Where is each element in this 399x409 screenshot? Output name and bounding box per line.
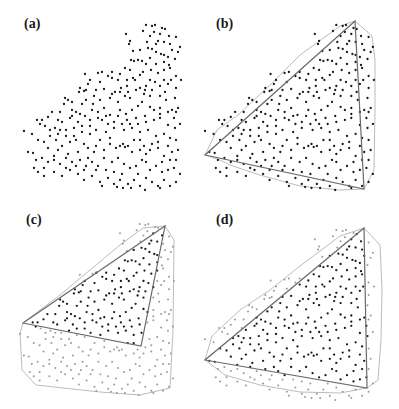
data-point: [115, 325, 117, 327]
data-point: [116, 346, 118, 348]
data-point: [322, 139, 324, 141]
data-point: [139, 131, 141, 133]
data-point: [84, 321, 86, 323]
data-point: [320, 151, 322, 153]
data-point: [129, 319, 131, 321]
data-point: [359, 145, 361, 147]
data-point: [348, 40, 350, 42]
data-point: [271, 165, 273, 167]
data-point: [152, 315, 154, 317]
data-point: [281, 89, 283, 91]
data-point: [43, 175, 45, 177]
data-point: [167, 56, 169, 58]
data-point: [117, 79, 119, 81]
data-point: [93, 282, 95, 284]
data-point: [78, 373, 80, 375]
data-point: [236, 159, 238, 161]
data-point: [217, 159, 219, 161]
data-point: [362, 79, 364, 81]
data-point: [39, 379, 41, 381]
data-point: [175, 181, 177, 183]
data-point: [124, 259, 126, 261]
data-point: [151, 143, 153, 145]
data-point: [119, 179, 121, 181]
data-point: [262, 121, 264, 123]
data-point: [161, 264, 163, 266]
data-point: [144, 115, 146, 117]
data-point: [170, 353, 172, 355]
data-point: [288, 327, 290, 329]
data-point: [107, 388, 109, 390]
data-point: [93, 151, 95, 153]
data-point: [89, 79, 91, 81]
data-point: [131, 259, 133, 261]
data-point: [161, 27, 163, 29]
data-point: [122, 143, 124, 145]
data-point: [89, 290, 91, 292]
data-point: [275, 286, 277, 288]
data-point: [43, 365, 45, 367]
data-point: [36, 119, 38, 121]
data-point: [123, 298, 125, 300]
data-point: [335, 153, 337, 155]
data-point: [236, 155, 238, 157]
data-point: [318, 123, 320, 125]
data-point: [146, 41, 148, 43]
data-point: [160, 313, 162, 315]
data-point: [99, 81, 101, 83]
data-point: [296, 304, 298, 306]
data-point: [117, 367, 119, 369]
data-point: [49, 129, 51, 131]
data-point: [234, 319, 236, 321]
data-point: [302, 298, 304, 300]
data-point: [180, 79, 182, 81]
data-point: [368, 319, 370, 321]
data-point: [354, 341, 356, 343]
data-point: [303, 147, 305, 149]
data-point: [353, 232, 355, 234]
data-point: [129, 369, 131, 371]
data-point: [352, 161, 354, 163]
data-point: [167, 258, 169, 260]
data-point: [101, 276, 103, 278]
data-point: [260, 347, 262, 349]
data-point: [97, 289, 99, 291]
data-point: [159, 85, 161, 87]
data-point: [120, 321, 122, 323]
data-point: [95, 169, 97, 171]
data-point: [145, 153, 147, 155]
data-point: [292, 378, 294, 380]
data-point: [105, 115, 107, 117]
data-point: [71, 101, 73, 103]
data-point: [108, 292, 110, 294]
data-point: [135, 117, 137, 119]
data-point: [361, 185, 363, 187]
data-point: [164, 249, 166, 251]
data-point: [101, 382, 103, 384]
data-point: [144, 248, 146, 250]
data-point: [134, 79, 136, 81]
data-point: [170, 309, 172, 311]
data-point: [169, 67, 171, 69]
data-point: [335, 362, 337, 364]
data-point: [307, 145, 309, 147]
convex-hull: [205, 21, 375, 190]
data-point: [167, 169, 169, 171]
data-point: [318, 304, 320, 306]
data-point: [149, 79, 151, 81]
data-point: [175, 139, 177, 141]
data-point: [111, 280, 113, 282]
data-point: [105, 294, 107, 296]
data-point: [346, 343, 348, 345]
data-point: [275, 341, 277, 343]
data-point: [273, 290, 275, 292]
data-point: [167, 299, 169, 301]
data-point: [350, 113, 352, 115]
data-point: [159, 107, 161, 109]
data-point: [277, 161, 279, 163]
data-point: [162, 340, 164, 342]
data-point: [33, 375, 35, 377]
data-point: [370, 149, 372, 151]
data-point: [139, 365, 141, 367]
data-point: [103, 346, 105, 348]
